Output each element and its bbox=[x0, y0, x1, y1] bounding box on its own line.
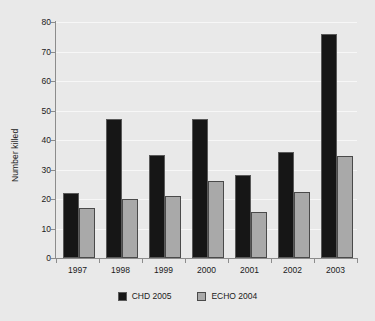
bar bbox=[337, 156, 353, 258]
legend-swatch-icon bbox=[118, 292, 127, 301]
x-tick-mark bbox=[142, 259, 143, 263]
x-tick-label: 2003 bbox=[326, 265, 345, 275]
x-tick-mark bbox=[357, 259, 358, 263]
legend-item: CHD 2005 bbox=[118, 291, 172, 301]
y-tick-label: 30 bbox=[11, 165, 51, 175]
x-tick-label: 2001 bbox=[240, 265, 259, 275]
gridline bbox=[56, 52, 357, 53]
legend-swatch-icon bbox=[197, 292, 206, 301]
legend-item: ECHO 2004 bbox=[197, 291, 257, 301]
x-tick-label: 1997 bbox=[68, 265, 87, 275]
x-tick-label: 2002 bbox=[283, 265, 302, 275]
y-axis-line bbox=[55, 21, 56, 259]
y-tick-label: 50 bbox=[11, 106, 51, 116]
bar-chart: Number killed 01020304050607080 19971998… bbox=[0, 0, 375, 321]
legend-label: CHD 2005 bbox=[132, 291, 172, 301]
bar bbox=[278, 152, 294, 258]
bar bbox=[251, 212, 267, 258]
y-tick-label: 60 bbox=[11, 76, 51, 86]
gridline bbox=[56, 22, 357, 23]
bar bbox=[122, 199, 138, 258]
y-tick-label: 80 bbox=[11, 17, 51, 27]
x-tick-mark bbox=[271, 259, 272, 263]
bar bbox=[149, 155, 165, 258]
bar bbox=[106, 119, 122, 258]
y-tick-label: 10 bbox=[11, 224, 51, 234]
x-tick-label: 2000 bbox=[197, 265, 216, 275]
bar bbox=[63, 193, 79, 258]
plot-area bbox=[56, 22, 357, 258]
bar bbox=[235, 175, 251, 258]
legend: CHD 2005ECHO 2004 bbox=[0, 291, 375, 301]
bar bbox=[321, 34, 337, 258]
x-tick-mark bbox=[56, 259, 57, 263]
x-tick-mark bbox=[185, 259, 186, 263]
bar bbox=[165, 196, 181, 258]
legend-label: ECHO 2004 bbox=[211, 291, 257, 301]
x-tick-mark bbox=[314, 259, 315, 263]
x-tick-label: 1998 bbox=[111, 265, 130, 275]
x-tick-mark bbox=[99, 259, 100, 263]
gridline bbox=[56, 111, 357, 112]
bar bbox=[79, 208, 95, 258]
y-tick-label: 0 bbox=[11, 253, 51, 263]
gridline bbox=[56, 81, 357, 82]
bar bbox=[208, 181, 224, 258]
y-tick-label: 20 bbox=[11, 194, 51, 204]
x-tick-mark bbox=[228, 259, 229, 263]
x-axis-line bbox=[55, 258, 358, 259]
y-tick-label: 70 bbox=[11, 47, 51, 57]
x-tick-label: 1999 bbox=[154, 265, 173, 275]
bar bbox=[294, 192, 310, 258]
bar bbox=[192, 119, 208, 258]
y-tick-label: 40 bbox=[11, 135, 51, 145]
